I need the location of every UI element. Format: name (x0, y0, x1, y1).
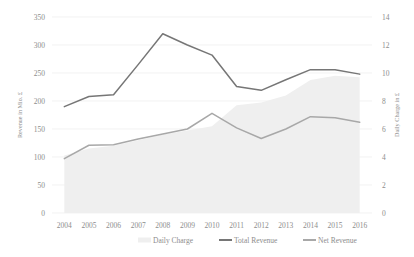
x-axis-tick: 2006 (106, 221, 121, 230)
y-axis-left-title: Revenue in Mio. £ (16, 92, 23, 138)
x-axis-tick: 2010 (205, 221, 220, 230)
x-axis-tick: 2014 (303, 221, 318, 230)
x-axis-tick: 2007 (131, 221, 146, 230)
chart-container: 0501001502002503003500246810121420042005… (0, 0, 414, 257)
y-axis-right-title: Daily Charge in £ (393, 93, 400, 137)
y-axis-left-tick: 100 (34, 153, 46, 162)
y-axis-right-tick: 8 (382, 97, 386, 106)
y-axis-right-tick: 2 (382, 181, 386, 190)
x-axis-tick: 2004 (57, 221, 72, 230)
y-axis-right-tick: 4 (382, 153, 386, 162)
x-axis: 2004200520062007200820092010201120122013… (57, 221, 368, 230)
x-axis-tick: 2015 (328, 221, 343, 230)
legend-swatch-daily-charge (138, 238, 151, 243)
y-axis-right-tick: 10 (382, 69, 390, 78)
combo-chart: 0501001502002503003500246810121420042005… (0, 0, 414, 257)
y-axis-left-tick: 50 (38, 181, 46, 190)
y-axis-left-tick: 0 (41, 209, 45, 218)
y-axis-left-tick: 300 (34, 41, 46, 50)
x-axis-tick: 2009 (180, 221, 195, 230)
x-axis-tick: 2013 (278, 221, 293, 230)
x-axis-tick: 2005 (81, 221, 96, 230)
y-axis-left: 050100150200250300350 (34, 13, 46, 218)
x-axis-tick: 2012 (254, 221, 269, 230)
y-axis-left-tick: 350 (34, 13, 46, 22)
legend-label-net-revenue: Net Revenue (318, 236, 358, 245)
y-axis-left-tick: 250 (34, 69, 46, 78)
legend-label-total-revenue: Total Revenue (234, 236, 278, 245)
x-axis-tick: 2008 (155, 221, 170, 230)
y-axis-right: 02468101214 (382, 13, 390, 218)
x-axis-tick: 2011 (229, 221, 244, 230)
legend-label-daily-charge: Daily Charge (153, 236, 194, 245)
y-axis-right-tick: 0 (382, 209, 386, 218)
y-axis-left-tick: 150 (34, 125, 46, 134)
y-axis-left-tick: 200 (34, 97, 46, 106)
y-axis-right-tick: 6 (382, 125, 386, 134)
x-axis-tick: 2016 (352, 221, 367, 230)
legend: Daily ChargeTotal RevenueNet Revenue (138, 236, 358, 245)
y-axis-right-tick: 12 (382, 41, 390, 50)
y-axis-right-tick: 14 (382, 13, 390, 22)
